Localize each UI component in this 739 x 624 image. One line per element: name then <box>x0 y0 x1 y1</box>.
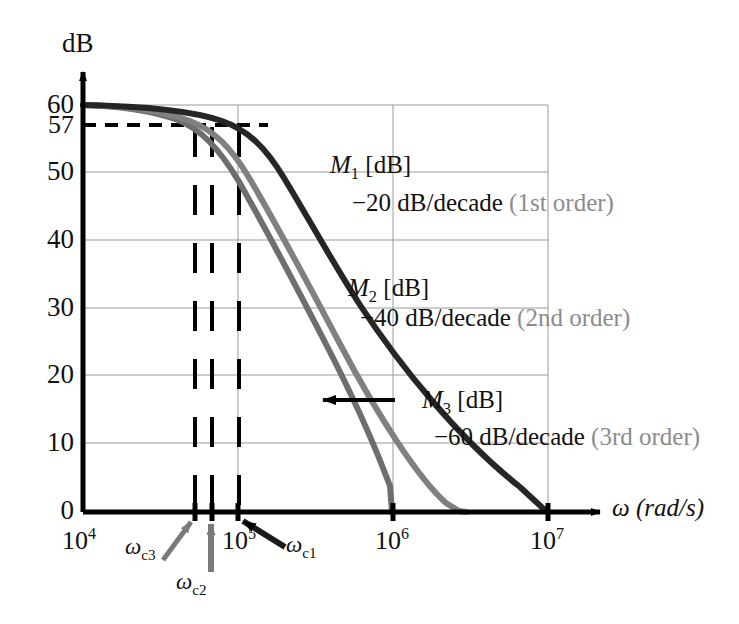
curve-label-m3-units: [dB] <box>451 386 503 413</box>
order-note-m2: (2nd order) <box>517 304 630 331</box>
wc3-pointer-arrow <box>163 522 191 560</box>
slope-label-m3: −60 dB/decade (3rd order) <box>434 424 700 449</box>
x-axis-title: ω (rad/s) <box>612 495 704 520</box>
omega-c1-sub: c1 <box>302 544 316 561</box>
omega-c2-sub: c2 <box>192 581 206 598</box>
y-tick-30: 30 <box>22 294 74 321</box>
omega-c3-sub: c3 <box>141 546 155 563</box>
curve-label-m1-units: [dB] <box>359 151 411 178</box>
bode-magnitude-plot: dB 60 57 50 40 30 20 10 0 104 105 106 10… <box>0 0 739 624</box>
label-omega-c2: ωc2 <box>176 570 207 593</box>
label-omega-c3: ωc3 <box>125 535 156 558</box>
slope-label-m3-value: −60 dB/decade <box>434 423 591 450</box>
curve-label-m3-name: M3 <box>422 386 451 413</box>
order-note-m1: (1st order) <box>509 189 614 216</box>
label-omega-c1: ωc1 <box>286 533 317 556</box>
omega-c2-base: ω <box>176 569 192 594</box>
curve-label-m2-letter: M <box>348 274 369 301</box>
curve-label-m2-name: M2 <box>348 274 377 301</box>
x-tick-10e7: 107 <box>530 528 564 554</box>
x-tick-10e6-base: 10 <box>375 526 401 555</box>
y-tick-0: 0 <box>22 497 74 524</box>
x-tick-10e4: 104 <box>62 528 96 554</box>
y-tick-10: 10 <box>22 429 74 456</box>
curve-label-m3-index: 3 <box>443 399 451 418</box>
x-tick-10e6: 106 <box>375 528 409 554</box>
x-tick-10e5-exp: 5 <box>248 525 256 542</box>
x-tick-10e6-exp: 6 <box>401 525 409 542</box>
curve-label-m3-letter: M <box>422 386 443 413</box>
x-tick-10e4-exp: 4 <box>88 525 96 542</box>
order-note-m3: (3rd order) <box>591 423 700 450</box>
curve-label-m3: M3 [dB] <box>422 387 503 412</box>
y-tick-40: 40 <box>22 226 74 253</box>
curve-label-m1: M1 [dB] <box>330 152 411 177</box>
slope-label-m2: −40 dB/decade (2nd order) <box>360 305 630 330</box>
curve-label-m1-letter: M <box>330 151 351 178</box>
y-axis-title: dB <box>62 30 94 57</box>
x-tick-10e7-exp: 7 <box>556 525 564 542</box>
y-tick-57: 57 <box>22 112 74 138</box>
omega-c1-base: ω <box>286 532 302 557</box>
curve-label-m2: M2 [dB] <box>348 275 429 300</box>
y-tick-20: 20 <box>22 361 74 388</box>
slope-label-m2-value: −40 dB/decade <box>360 304 517 331</box>
x-tick-10e5-base: 10 <box>222 526 248 555</box>
curve-label-m1-name: M1 <box>330 151 359 178</box>
x-tick-10e7-base: 10 <box>530 526 556 555</box>
x-axis-title-text: ω (rad/s) <box>612 494 704 521</box>
slope-label-m1-value: −20 dB/decade <box>352 189 509 216</box>
omega-c3-base: ω <box>125 534 141 559</box>
curve-label-m1-index: 1 <box>351 164 359 183</box>
y-tick-50: 50 <box>22 158 74 185</box>
x-tick-10e4-base: 10 <box>62 526 88 555</box>
curve-label-m2-units: [dB] <box>377 274 429 301</box>
slope-label-m1: −20 dB/decade (1st order) <box>352 190 614 215</box>
x-tick-10e5: 105 <box>222 528 256 554</box>
